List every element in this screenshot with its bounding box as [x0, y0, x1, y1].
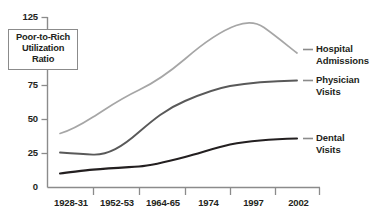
x-axis-tick-label-5: 1997 [231, 197, 276, 208]
y-axis-tick-label-50: 50 [8, 113, 38, 124]
legend-item-physician-visits: Physician Visits [316, 74, 359, 97]
legend-item-hospital-admissions: Hospital Admissions [316, 43, 369, 66]
legend-label-hospital-line-1: Hospital [316, 43, 369, 55]
legend-label-hospital-line-2: Admissions [316, 55, 369, 67]
series-line-physician-visits [60, 81, 297, 155]
y-axis-title-box: Poor-to-Rich Utilization Ratio [8, 29, 78, 70]
y-axis-tick-label-125: 125 [8, 11, 38, 22]
y-axis-title-line-3: Ratio [11, 54, 75, 65]
y-axis-title-line-2: Utilization [11, 43, 75, 54]
legend-label-dental-line-2: Visits [316, 144, 344, 156]
x-axis-tick-label-3: 1964-65 [140, 197, 186, 208]
legend-label-dental-line-1: Dental [316, 132, 344, 144]
x-axis-tick-label-2: 1952-53 [94, 197, 140, 208]
chart-container: 125 75 50 25 0 Poor-to-Rich Utilization … [0, 0, 377, 219]
y-axis-tick-label-25: 25 [8, 147, 38, 158]
series-line-dental-visits [60, 139, 297, 174]
x-axis-tick-label-1: 1928-31 [48, 197, 94, 208]
y-axis-title-line-1: Poor-to-Rich [11, 32, 75, 43]
legend-label-physician-line-2: Visits [316, 86, 359, 98]
legend-item-dental-visits: Dental Visits [316, 132, 344, 155]
y-axis-tick-label-75: 75 [8, 79, 38, 90]
y-axis-tick-label-0: 0 [8, 181, 38, 192]
x-axis-tick-label-4: 1974 [186, 197, 231, 208]
x-axis-tick-label-6: 2002 [276, 197, 321, 208]
series-line-hospital-admissions [60, 23, 297, 134]
legend-label-physician-line-1: Physician [316, 74, 359, 86]
